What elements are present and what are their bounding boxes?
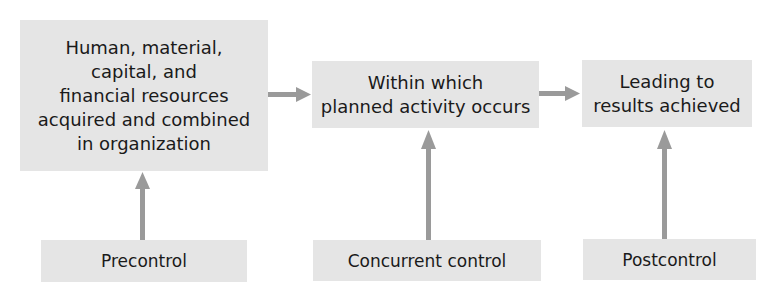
- control-label-postcontrol: Postcontrol: [622, 248, 717, 272]
- stage-box-activity: Within which planned activity occurs: [312, 61, 539, 128]
- arrow-up-icon: [421, 130, 436, 240]
- control-label-precontrol: Precontrol: [101, 249, 187, 273]
- stage-box-resources: Human, material, capital, and financial …: [20, 20, 268, 171]
- arrow-up-icon: [135, 172, 150, 240]
- stage-label-results: Leading to results achieved: [593, 70, 741, 118]
- control-box-precontrol: Precontrol: [41, 240, 247, 282]
- control-label-concurrent: Concurrent control: [348, 249, 507, 273]
- arrow-right-icon: [539, 86, 580, 101]
- stage-label-resources: Human, material, capital, and financial …: [38, 36, 250, 156]
- control-box-concurrent: Concurrent control: [313, 240, 541, 281]
- stage-label-activity: Within which planned activity occurs: [321, 71, 531, 119]
- arrow-right-icon: [268, 87, 311, 102]
- control-box-postcontrol: Postcontrol: [583, 239, 756, 280]
- stage-box-results: Leading to results achieved: [582, 60, 752, 127]
- arrow-up-icon: [657, 130, 672, 239]
